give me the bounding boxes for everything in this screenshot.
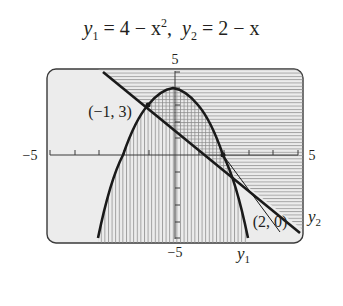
label-y1: y1 xyxy=(235,244,250,265)
annotation-point1: (−1, 3) xyxy=(88,103,132,121)
y-min-label: −5 xyxy=(168,245,183,260)
label-y2: y2 xyxy=(306,207,321,228)
x-max-label: 5 xyxy=(309,148,316,163)
y-max-label: 5 xyxy=(172,52,179,67)
chart-svg: 5 −5 −5 5 (−1, 3) (2, 0) y1 y2 xyxy=(0,0,343,306)
annotation-point2: (2, 0) xyxy=(253,213,288,231)
x-min-label: −5 xyxy=(23,148,38,163)
point-2-0 xyxy=(221,153,226,158)
point-neg1-3 xyxy=(146,103,151,108)
